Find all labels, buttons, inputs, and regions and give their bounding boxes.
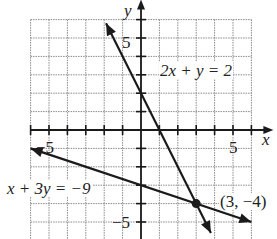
y-tick-label-5: 5 — [122, 34, 131, 51]
intersection-label: (3, −4) — [219, 193, 267, 210]
equation-label-2: x + 3y = −9 — [6, 180, 92, 197]
y-tick-label-neg5: −5 — [112, 214, 130, 231]
x-tick-label-neg5: −5 — [36, 139, 54, 156]
y-axis-label: y — [124, 2, 132, 19]
equation-label-1: 2x + y = 2 — [159, 62, 233, 79]
x-tick-label-5: 5 — [229, 139, 238, 156]
x-axis-label: x — [262, 131, 270, 148]
